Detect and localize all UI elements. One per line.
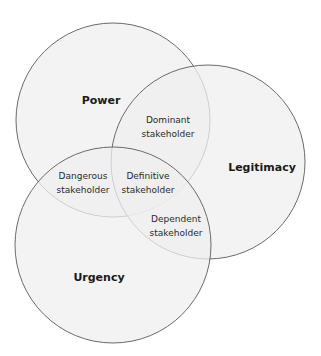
dominant-label-line1: Dominant [146,115,191,125]
dangerous-label-line2: stakeholder [57,185,110,195]
dominant-label-line2: stakeholder [142,129,195,139]
dependent-label-line2: stakeholder [150,228,203,238]
definitive-label-line2: stakeholder [122,185,175,195]
urgency-circle [15,147,211,343]
dangerous-label-line1: Dangerous [59,171,108,181]
dependent-label-line1: Dependent [151,214,201,224]
legitimacy-label: Legitimacy [228,161,296,174]
power-label: Power [82,94,121,107]
stakeholder-venn-diagram: Power Legitimacy Urgency Dominant stakeh… [0,0,321,356]
urgency-label: Urgency [73,271,124,284]
definitive-label-line1: Definitive [126,171,170,181]
